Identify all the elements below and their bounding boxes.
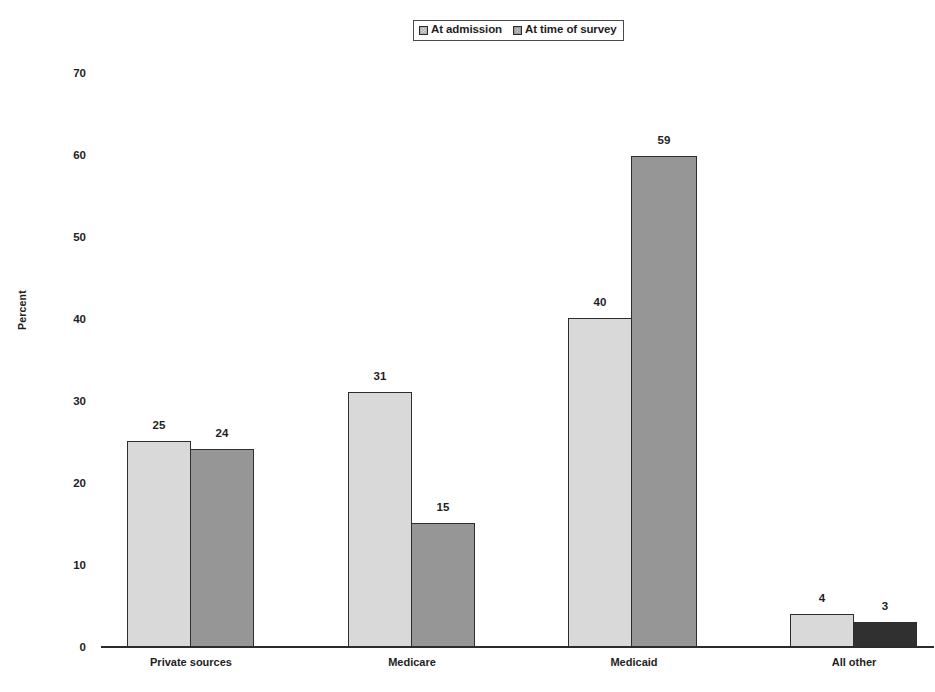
- bar-value-medicaid-at-time-of-survey: 59: [631, 135, 697, 147]
- bar-chart: At admission At time of survey 70 60 50 …: [0, 0, 935, 692]
- ytick-label-60: 60: [46, 150, 86, 162]
- bar-texture: [791, 615, 853, 646]
- ytick-label-20: 20: [46, 478, 86, 490]
- ytick-label-30: 30: [46, 396, 86, 408]
- bar-texture: [349, 393, 411, 646]
- category-label-private-sources: Private sources: [111, 657, 271, 668]
- ytick-label-0: 0: [46, 642, 86, 654]
- plot-area: 70 60 50 40 30 20 10 0 Percent 25 24 Pri…: [0, 0, 935, 692]
- ytick-label-10: 10: [46, 560, 86, 572]
- bar-texture: [412, 524, 474, 646]
- bar-texture: [632, 157, 696, 646]
- bar-all-other-at-admission: [790, 614, 854, 647]
- bar-medicaid-at-admission: [568, 318, 632, 647]
- bar-medicare-at-time-of-survey: [411, 523, 475, 647]
- bar-value-medicare-at-admission: 31: [348, 371, 412, 383]
- bar-private-sources-at-time-of-survey: [190, 449, 254, 647]
- bar-value-medicare-at-time-of-survey: 15: [411, 502, 475, 514]
- category-label-medicare: Medicare: [332, 657, 492, 668]
- bar-private-sources-at-admission: [127, 441, 191, 647]
- bar-all-other-at-time-of-survey: [853, 622, 917, 647]
- bar-value-private-sources-at-time-of-survey: 24: [190, 428, 254, 440]
- bar-value-private-sources-at-admission: 25: [127, 420, 191, 432]
- bar-texture: [191, 450, 253, 646]
- bar-value-medicaid-at-admission: 40: [568, 297, 632, 309]
- bar-texture: [569, 319, 631, 646]
- bar-texture: [854, 623, 916, 646]
- bar-value-all-other-at-admission: 4: [790, 593, 854, 605]
- bar-medicaid-at-time-of-survey: [631, 156, 697, 647]
- category-label-medicaid: Medicaid: [554, 657, 714, 668]
- ytick-label-40: 40: [46, 314, 86, 326]
- bar-texture: [128, 442, 190, 646]
- ytick-label-50: 50: [46, 232, 86, 244]
- category-label-all-other: All other: [774, 657, 934, 668]
- ytick-label-70: 70: [46, 68, 86, 80]
- bar-medicare-at-admission: [348, 392, 412, 647]
- bar-value-all-other-at-time-of-survey: 3: [853, 601, 917, 613]
- y-axis-title: Percent: [16, 290, 28, 330]
